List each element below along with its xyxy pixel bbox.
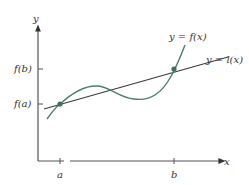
point-b <box>171 66 176 71</box>
curve-label-l: y = l(x) <box>205 54 243 65</box>
point-a <box>57 101 62 106</box>
curve-f <box>47 45 185 119</box>
mvt-diagram: y x a b f(b) f(a) y = f(x) y = l(x) <box>0 0 249 185</box>
tick-label-a: a <box>57 169 63 180</box>
tick-label-fb: f(b) <box>13 63 32 74</box>
tick-label-fa: f(a) <box>13 98 32 109</box>
tick-label-b: b <box>171 169 177 180</box>
secant-line-l <box>44 57 228 109</box>
axes <box>38 28 222 161</box>
curve-label-f: y = f(x) <box>168 31 207 42</box>
y-axis-label: y <box>32 13 39 24</box>
x-axis-label: x <box>224 156 230 167</box>
ticks <box>38 69 174 164</box>
